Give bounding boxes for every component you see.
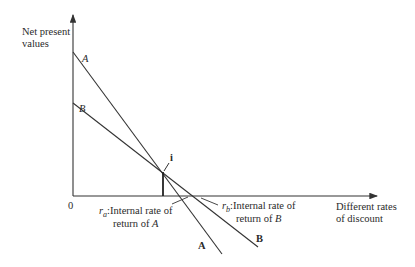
rb-var: B [275,213,281,224]
ra-text-2: return of [113,218,152,229]
origin-label: 0 [68,200,73,212]
y-axis-label-line2: values [22,38,49,50]
ra-var: A [152,218,158,229]
x-axis-label-line2: of discount [336,213,383,225]
line-b [73,103,258,247]
ra-text: :Internal rate of [107,205,172,216]
intersection-pointer-arrow [164,163,169,171]
rb-label-line2: return of B [236,213,282,225]
rb-text-2: return of [236,213,275,224]
line-a-bottom-label: A [198,240,206,252]
x-axis-label-line1: Different rates [336,201,397,213]
line-b-bottom-label: B [256,233,263,245]
line-a-top-label: A [82,53,88,65]
y-axis-label-line1: Net present [22,26,70,38]
npv-diagram [0,0,415,267]
ra-label-line2: return of A [113,218,159,230]
intersection-label: i [170,152,173,164]
rb-text: :Internal rate of [230,200,295,211]
ra-pointer-arrow [172,197,188,204]
line-b-top-label: B [79,103,85,115]
